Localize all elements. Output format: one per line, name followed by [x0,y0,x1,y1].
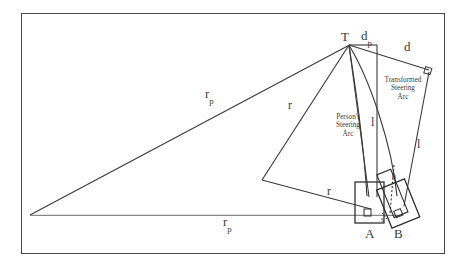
diagram-canvas: T dp d rp rp r r l l Person's Steering A… [0,0,467,269]
label-rp-lower: rp [223,215,232,231]
label-l-right: l [417,138,420,150]
label-transformed-arc-line3: Arc [398,93,409,101]
label-dp: dp [361,29,372,45]
label-rp-lower-subscript: p [227,224,231,234]
label-l-left: l [371,116,374,128]
label-person-arc-line1: Person's [336,113,360,121]
label-transformed-steering-arc: Transformed Steering Arc [379,76,427,101]
right-angle-marker-top-right [424,67,432,75]
label-vehicle-a: A [365,227,374,240]
label-person-arc-line3: Arc [343,130,354,138]
label-theta-angle: θ [392,174,396,182]
label-r-lower: r [327,185,331,197]
label-dp-subscript: p [368,38,372,48]
label-vehicle-b: B [394,227,403,240]
label-person-steering-arc: Person's Steering Arc [327,113,369,138]
line-rp-upper [30,45,350,215]
label-offset-s: s [381,215,384,224]
label-transformed-arc-line2: Steering [391,84,415,92]
label-d: d [404,40,411,53]
label-point-t: T [341,30,349,43]
label-rp-upper: rp [205,87,214,103]
label-person-arc-line2: Steering [336,121,360,129]
label-rp-upper-subscript: p [209,96,213,106]
label-transformed-arc-line1: Transformed [385,76,422,84]
line-d-transformed [349,45,429,70]
label-dp-base: d [361,28,368,43]
label-r-upper: r [288,99,292,111]
